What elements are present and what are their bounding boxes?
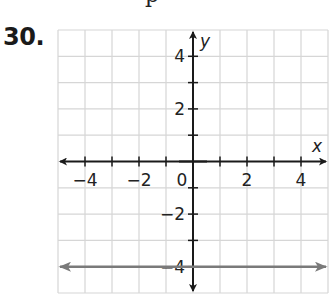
x-tick-label: 0 [177,170,188,190]
x-tick-label: 4 [296,170,307,190]
coordinate-plane: −4−202442−2−4xy [0,0,336,296]
y-axis-label: y [199,31,211,51]
x-axis-label: x [311,136,323,156]
y-tick-label: 4 [174,46,185,66]
y-tick-label: 2 [174,99,185,119]
y-tick-label: −2 [160,204,185,224]
x-tick-label: −4 [72,170,97,190]
x-tick-label: −2 [126,170,151,190]
axes [60,32,326,291]
x-tick-label: 2 [242,170,253,190]
